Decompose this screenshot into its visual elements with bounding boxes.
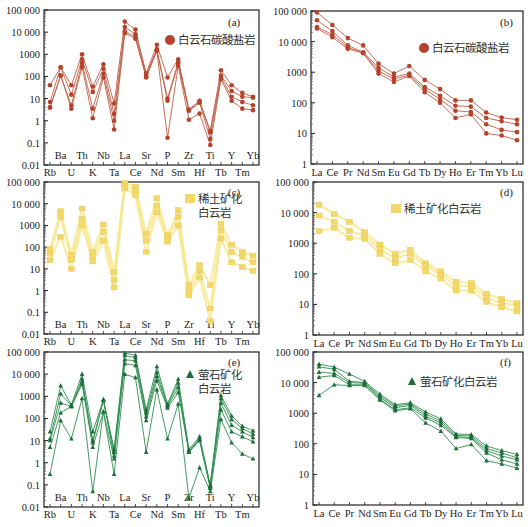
data-point (197, 111, 202, 116)
panel-label: (d) (500, 186, 513, 199)
y-tick-label: 10 000 (280, 378, 309, 389)
x-tick-label: Gd (403, 167, 417, 178)
legend-marker-icon (408, 377, 416, 385)
data-point (132, 193, 138, 198)
series-line (50, 31, 253, 139)
data-point (218, 221, 224, 226)
data-point (112, 472, 117, 476)
x-tick-label: Tm (479, 508, 494, 519)
y-tick-label: 100 000 (6, 177, 40, 188)
legend-marker-icon (185, 194, 195, 203)
data-point (175, 214, 181, 219)
data-point (484, 299, 490, 304)
data-point (112, 101, 117, 106)
data-point (392, 256, 398, 261)
data-point (315, 26, 320, 31)
data-point (317, 393, 322, 397)
x-tick-label-inner: Y (228, 150, 236, 161)
x-tick-label: Nd (358, 338, 372, 349)
data-point (315, 18, 320, 23)
data-point (392, 80, 397, 85)
x-tick-label: Pr (345, 338, 355, 349)
y-tick-label: 100 000 (275, 347, 309, 358)
series-line (319, 385, 517, 468)
y-tick-label: 100 (293, 439, 309, 450)
x-tick-label-inner: Ti (206, 150, 215, 161)
data-point (229, 83, 234, 88)
legend-marker-icon (165, 35, 175, 45)
x-tick-label: Sm (171, 509, 185, 520)
x-tick-label-inner: P (165, 150, 171, 161)
data-point (207, 283, 213, 288)
x-tick-label: Yb (495, 508, 508, 519)
data-point (250, 253, 256, 258)
data-point (101, 398, 106, 402)
data-point (90, 116, 95, 121)
legend: 白云石碳酸盐岩 (419, 41, 509, 55)
data-point (80, 372, 85, 376)
x-tick-label: Tb (420, 508, 432, 519)
x-tick-label: K (89, 167, 97, 178)
x-tick-label: Sm (171, 336, 185, 347)
x-tick-label: Tm (235, 336, 250, 347)
data-point (219, 77, 224, 82)
x-tick-label: Pr (343, 167, 353, 178)
data-point (112, 118, 117, 123)
data-point (155, 364, 160, 368)
data-point (229, 429, 234, 433)
data-point (197, 100, 202, 105)
data-point (453, 116, 458, 121)
x-tick-label: Dy (434, 338, 448, 349)
data-point (345, 36, 350, 41)
panel-d: 100 00010 0001000100101LaCePrNdSmEuGdTbD… (275, 177, 524, 349)
data-point (58, 234, 64, 239)
y-tick-label: 1 (35, 458, 40, 469)
x-tick-label-inner: Nb (97, 150, 110, 161)
data-point (438, 276, 444, 281)
data-point (362, 236, 368, 241)
data-point (90, 84, 95, 89)
y-tick-label: 0.1 (27, 138, 40, 149)
y-tick-label: 0.1 (27, 307, 40, 318)
data-point (229, 260, 235, 265)
data-point (165, 75, 170, 80)
data-point (468, 288, 474, 293)
data-point (197, 268, 203, 273)
legend: 萤石矿化白云岩 (186, 368, 243, 396)
data-point (90, 489, 95, 493)
y-tick-label: 0.01 (22, 502, 40, 513)
data-point (346, 229, 352, 234)
data-point (144, 75, 149, 80)
x-tick-label-inner: Y (228, 492, 236, 503)
data-point (154, 210, 160, 215)
data-point (143, 238, 149, 243)
x-tick-label: Sm (372, 167, 386, 178)
data-point (48, 100, 53, 105)
x-tick-label: Er (466, 167, 476, 178)
data-point (143, 232, 149, 237)
data-point (229, 89, 234, 94)
y-tick-label: 100 000 (6, 5, 40, 16)
x-tick-label-inner: La (119, 492, 130, 503)
data-point (469, 104, 474, 109)
x-tick-label-inner: La (119, 319, 130, 330)
data-point (79, 223, 85, 228)
data-point (208, 137, 213, 142)
x-tick-label-inner: Sr (141, 319, 151, 330)
data-point (207, 306, 213, 311)
x-tick-label-inner: Th (76, 319, 88, 330)
data-point (514, 303, 520, 308)
data-point (122, 25, 127, 30)
x-tick-label-inner: Zr (184, 150, 194, 161)
panel-label: (f) (500, 356, 511, 369)
data-point (68, 258, 74, 263)
data-point (438, 101, 443, 106)
data-point (240, 95, 245, 100)
data-point (48, 445, 53, 449)
data-point (316, 213, 322, 218)
x-tick-label: Sm (171, 167, 185, 178)
data-point (58, 73, 63, 78)
x-tick-label-inner: La (119, 150, 130, 161)
data-point (316, 229, 322, 234)
data-point (392, 251, 398, 256)
